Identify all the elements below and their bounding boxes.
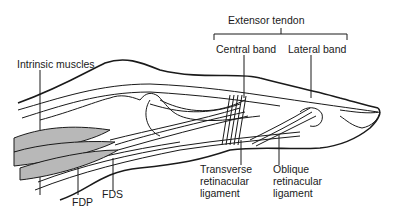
label-central-band: Central band <box>216 43 276 55</box>
label-transverse-retinacular-ligament: Transverse retinacular ligament <box>200 163 280 199</box>
label-extensor-tendon: Extensor tendon <box>228 14 304 26</box>
label-intrinsic-muscles: Intrinsic muscles <box>17 58 95 70</box>
label-fds: FDS <box>102 188 123 200</box>
label-oblique-retinacular-ligament: Oblique retinacular ligament <box>273 163 353 199</box>
label-lateral-band: Lateral band <box>288 43 346 55</box>
finger-anatomy-diagram: Extensor tendon Central band Lateral ban… <box>0 0 398 218</box>
label-fdp: FDP <box>72 196 93 208</box>
